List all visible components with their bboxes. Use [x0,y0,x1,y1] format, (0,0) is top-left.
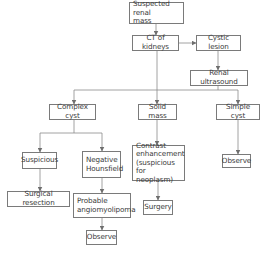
node-renal-ultrasound: Renal ultrasound [190,70,248,86]
node-contrast-enhancement: Contrast enhancement (suspicious for neo… [132,145,185,181]
node-probable-angiomyolipoma: Probable angiomyolipoma [73,193,131,218]
node-ct-of-kidneys: CT of kidneys [132,35,179,51]
node-complex-cyst: Complex cyst [49,104,96,120]
node-simple-cyst: Simple cyst [216,104,260,120]
node-suspected-renal-mass: Suspected renal mass [129,2,184,24]
node-surgery: Surgery [143,200,173,215]
node-cystic-lesion: Cystic lesion [196,35,241,51]
renal-mass-flowchart: Suspected renal mass CT of kidneys Cysti… [0,0,261,253]
node-solid-mass: Solid mass [138,104,177,120]
node-observe-angiomyolipoma: Observe [86,230,117,245]
node-negative-hounsfield: Negative Hounsfield [82,151,121,178]
node-suspicious: Suspicious [22,152,57,169]
node-observe-simple-cyst: Observe [222,154,251,168]
node-surgical-resection: Surgical resection [7,191,70,207]
